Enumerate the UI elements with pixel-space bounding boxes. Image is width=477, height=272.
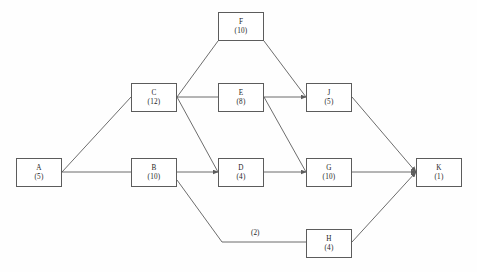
edge-b-h: [177, 180, 306, 242]
node-H-label: H: [326, 235, 331, 243]
node-K[interactable]: K (1): [416, 158, 462, 187]
edge-group: [62, 41, 416, 242]
node-C-duration: (12): [148, 98, 161, 106]
node-J[interactable]: J (5): [306, 83, 352, 112]
edge-f-j: [264, 41, 306, 97]
network-diagram: A (5) B (10) C (12) D (4) E (8) F (10) G…: [0, 0, 477, 272]
node-D-label: D: [238, 164, 243, 172]
node-F-duration: (10): [235, 27, 248, 35]
edge-a-c: [62, 97, 131, 172]
node-K-duration: (1): [435, 173, 444, 181]
node-B[interactable]: B (10): [131, 158, 177, 187]
node-E-label: E: [239, 89, 244, 97]
node-K-label: K: [436, 164, 441, 172]
node-J-duration: (5): [325, 98, 334, 106]
node-E-duration: (8): [237, 98, 246, 106]
node-F[interactable]: F (10): [218, 12, 264, 41]
edge-label-b-h: (2): [251, 229, 259, 237]
node-H[interactable]: H (4): [306, 229, 352, 258]
node-J-label: J: [328, 89, 331, 97]
node-G-duration: (10): [323, 173, 336, 181]
node-E[interactable]: E (8): [218, 83, 264, 112]
edge-j-k: [352, 97, 416, 172]
node-G[interactable]: G (10): [306, 158, 352, 187]
edge-c-f: [177, 41, 218, 97]
node-D-duration: (4): [237, 173, 246, 181]
node-C[interactable]: C (12): [131, 83, 177, 112]
node-D[interactable]: D (4): [218, 158, 264, 187]
node-G-label: G: [326, 164, 331, 172]
node-A-label: A: [36, 164, 41, 172]
node-H-duration: (4): [325, 244, 334, 252]
node-C-label: C: [152, 89, 157, 97]
edge-e-g: [264, 97, 306, 172]
edge-h-k: [352, 172, 416, 242]
node-F-label: F: [239, 18, 243, 26]
node-B-label: B: [152, 164, 157, 172]
node-A[interactable]: A (5): [16, 158, 62, 187]
edge-c-d: [177, 97, 218, 172]
node-A-duration: (5): [35, 173, 44, 181]
node-B-duration: (10): [148, 173, 161, 181]
